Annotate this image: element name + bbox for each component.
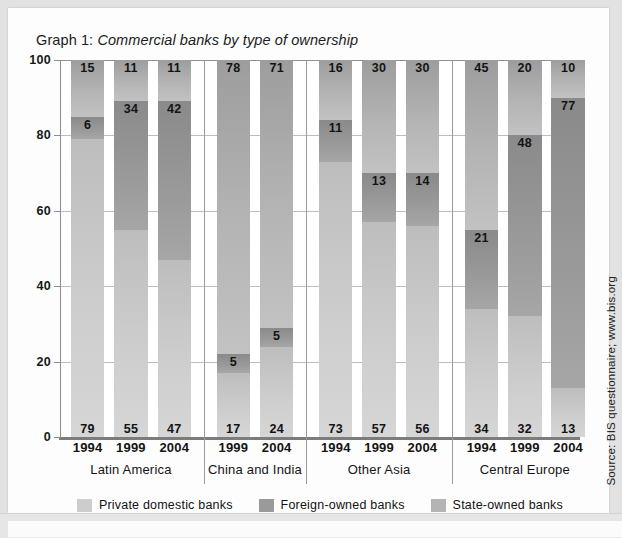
bar-segment-foreign-owned: 13 [362, 173, 395, 222]
bar-other-asia-1999: 301357 [362, 60, 395, 437]
bar-latin-america-2004: 114247 [158, 60, 191, 437]
bar-value-label: 45 [465, 61, 498, 75]
y-axis-tick-label: 80 [36, 128, 51, 142]
bar-value-label: 11 [114, 61, 147, 75]
bar-segment-foreign-owned: 11 [319, 120, 352, 161]
x-axis-year-label: 1999 [503, 440, 547, 455]
bar-value-label: 5 [217, 355, 250, 369]
y-axis-tick [54, 60, 61, 61]
bar-segment-state-owned: 30 [406, 60, 439, 173]
x-axis-year-label: 2004 [152, 440, 196, 455]
y-axis-tick-label: 0 [44, 430, 51, 444]
bar-value-label: 42 [158, 102, 191, 116]
bar-value-label: 6 [71, 118, 104, 132]
bar-segment-private-domestic: 55 [114, 230, 147, 437]
bar-segment-state-owned: 71 [260, 60, 293, 328]
bar-value-label: 10 [551, 61, 584, 75]
title-text: Commercial banks by type of ownership [97, 32, 358, 48]
bar-central-europe-2004: 107713 [551, 60, 584, 437]
bar-value-label: 56 [406, 422, 439, 436]
chart-card: Graph 1: Commercial banks by type of own… [8, 8, 609, 513]
y-axis-tick [54, 135, 61, 136]
bar-segment-foreign-owned: 5 [260, 328, 293, 347]
bar-segment-state-owned: 78 [217, 60, 250, 354]
bar-segment-state-owned: 15 [71, 60, 104, 117]
legend-label: State-owned banks [453, 498, 563, 512]
x-axis-year-label: 2004 [255, 440, 299, 455]
bar-other-asia-2004: 301456 [406, 60, 439, 437]
bar-value-label: 77 [551, 99, 584, 113]
legend-item-state-owned: State-owned banks [431, 498, 563, 512]
bar-value-label: 47 [158, 422, 191, 436]
y-axis-tick-label: 40 [36, 279, 51, 293]
group-separator [204, 60, 205, 484]
bar-value-label: 24 [260, 422, 293, 436]
bar-value-label: 30 [362, 61, 395, 75]
y-axis-tick-label: 20 [36, 355, 51, 369]
bar-segment-private-domestic: 24 [260, 347, 293, 437]
legend-swatch-icon [259, 499, 274, 512]
bar-segment-private-domestic: 57 [362, 222, 395, 437]
y-axis-line [60, 60, 61, 438]
bar-value-label: 57 [362, 422, 395, 436]
bar-segment-private-domestic: 17 [217, 373, 250, 437]
y-axis-tick-label: 100 [29, 53, 51, 67]
bar-segment-foreign-owned: 77 [551, 98, 584, 388]
bar-segment-state-owned: 20 [508, 60, 541, 135]
y-axis-tick [54, 362, 61, 363]
page-title: Graph 1: Commercial banks by type of own… [36, 32, 358, 48]
bar-segment-private-domestic: 79 [71, 139, 104, 437]
bar-segment-state-owned: 11 [114, 60, 147, 101]
x-axis-group-label: Central Europe [435, 462, 615, 477]
bar-segment-foreign-owned: 14 [406, 173, 439, 226]
bar-segment-private-domestic: 56 [406, 226, 439, 437]
bar-segment-private-domestic: 32 [508, 316, 541, 437]
y-axis-tick [54, 286, 61, 287]
legend-item-private-domestic: Private domestic banks [77, 498, 233, 512]
bar-segment-state-owned: 45 [465, 60, 498, 230]
bar-segment-foreign-owned: 21 [465, 230, 498, 309]
bar-segment-private-domestic: 34 [465, 309, 498, 437]
bar-value-label: 11 [158, 61, 191, 75]
bar-value-label: 11 [319, 121, 352, 135]
bar-value-label: 17 [217, 422, 250, 436]
legend-label: Foreign-owned banks [281, 498, 405, 512]
legend-swatch-icon [431, 499, 446, 512]
x-axis-year-label: 2004 [546, 440, 590, 455]
x-axis-year-label: 1994 [314, 440, 358, 455]
bar-central-europe-1999: 204832 [508, 60, 541, 437]
chart-legend: Private domestic banksForeign-owned bank… [61, 495, 579, 515]
bar-segment-private-domestic: 13 [551, 388, 584, 437]
y-axis-tick [54, 211, 61, 212]
bar-value-label: 78 [217, 61, 250, 75]
plot-area: 020406080100 156791134551142477851771524… [61, 60, 579, 437]
group-separator [306, 60, 307, 484]
bar-latin-america-1999: 113455 [114, 60, 147, 437]
x-axis-labels: 199419992004Latin America19992004China a… [61, 440, 579, 486]
bar-value-label: 30 [406, 61, 439, 75]
group-separator [452, 60, 453, 484]
legend-label: Private domestic banks [99, 498, 233, 512]
bar-value-label: 13 [362, 174, 395, 188]
bar-value-label: 16 [319, 61, 352, 75]
bar-segment-state-owned: 11 [158, 60, 191, 101]
x-axis-year-label: 1994 [66, 440, 110, 455]
legend-item-foreign-owned: Foreign-owned banks [259, 498, 405, 512]
bar-value-label: 5 [260, 329, 293, 343]
bar-value-label: 55 [114, 422, 147, 436]
bar-segment-foreign-owned: 5 [217, 354, 250, 373]
x-axis-year-label: 2004 [400, 440, 444, 455]
x-axis-year-label: 1994 [460, 440, 504, 455]
bar-segment-private-domestic: 47 [158, 260, 191, 437]
bar-china-and-india-2004: 71524 [260, 60, 293, 437]
title-prefix: Graph 1: [36, 32, 93, 48]
page-bottom-strip [8, 521, 622, 537]
bar-value-label: 34 [114, 102, 147, 116]
bar-value-label: 20 [508, 61, 541, 75]
bar-segment-foreign-owned: 48 [508, 135, 541, 316]
x-axis-year-label: 1999 [357, 440, 401, 455]
bar-segment-foreign-owned: 42 [158, 101, 191, 259]
bar-value-label: 14 [406, 174, 439, 188]
bar-value-label: 73 [319, 422, 352, 436]
